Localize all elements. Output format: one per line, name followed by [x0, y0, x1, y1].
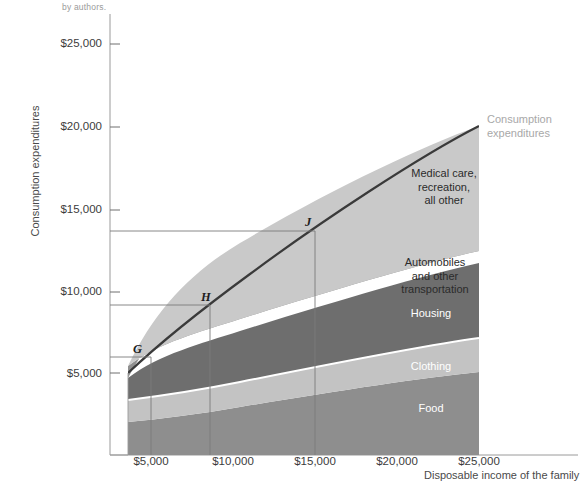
consumption-curve-label: Consumption expenditures	[487, 113, 552, 140]
band-label-food: Food	[386, 402, 476, 416]
y-tick-marks	[110, 44, 120, 373]
plot-canvas	[0, 0, 583, 484]
band-label-medical: Medical care, recreation, all other	[396, 167, 492, 208]
band-label-clothing: Clothing	[386, 360, 476, 374]
band-label-housing: Housing	[386, 307, 476, 321]
band-label-autos: Automobiles and other transportation	[387, 256, 483, 297]
point-label-H: H	[201, 290, 211, 305]
point-label-G: G	[133, 342, 142, 357]
chart-figure: by authors. Consumption expenditures Dis…	[0, 0, 583, 484]
point-label-J: J	[305, 215, 311, 230]
